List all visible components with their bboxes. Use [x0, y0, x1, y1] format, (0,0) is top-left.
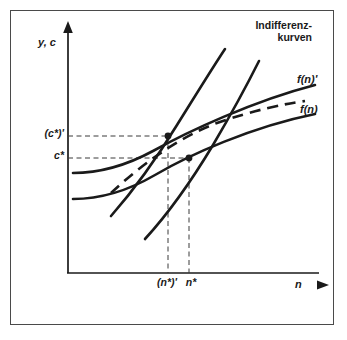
- indifference-curves-label-line2: kurven: [278, 31, 312, 43]
- y-axis-arrow-icon: [63, 21, 73, 33]
- y-tick-label-c-star-prime: (c*)': [33, 128, 64, 140]
- y-axis-label: y, c: [38, 36, 56, 48]
- indifference-curves-label-line1: Indifferenz-: [255, 19, 312, 31]
- indifference-curves-group: [111, 49, 259, 239]
- production-functions-group: [73, 85, 315, 199]
- x-tick-label-n-star: n*: [181, 277, 201, 289]
- equilibrium-point-base: [186, 155, 193, 162]
- axes-group: [63, 21, 329, 290]
- x-axis-label: n: [295, 278, 302, 290]
- guide-lines-group: [68, 136, 189, 273]
- curve-label-f-n: f(n): [300, 103, 318, 115]
- curve-label-f-n-prime: f(n)': [297, 73, 317, 85]
- curve-f-n: [73, 114, 315, 199]
- equilibrium-point-shifted: [165, 133, 172, 140]
- x-axis-arrow-icon: [317, 280, 329, 289]
- indifference-curves-label: Indifferenz- kurven: [228, 20, 312, 44]
- y-tick-label-c-star: c*: [33, 150, 64, 162]
